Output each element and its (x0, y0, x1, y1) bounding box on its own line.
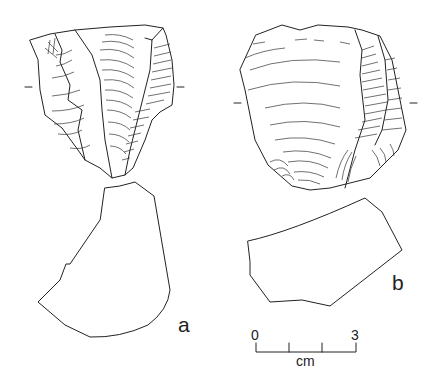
artifact-a-label: a (178, 313, 190, 336)
artifact-a-dorsal-view (25, 25, 184, 178)
scale-start-label: 0 (251, 327, 259, 343)
artifact-b-section (248, 198, 402, 306)
scale-unit-label: cm (296, 353, 315, 369)
artifact-a-section (38, 182, 170, 337)
figure-canvas: a b 0 3 cm (0, 0, 435, 389)
scale-bar: 0 3 cm (251, 327, 359, 369)
scale-end-label: 3 (351, 327, 359, 343)
artifact-b-label: b (392, 271, 404, 294)
artifact-b-dorsal-view (234, 25, 417, 190)
lithic-drawing: a b 0 3 cm (0, 0, 435, 389)
